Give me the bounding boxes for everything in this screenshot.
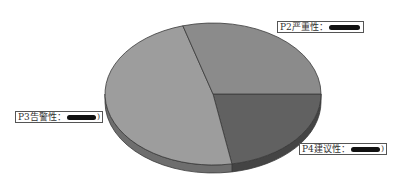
label-p4-suggestion: P4建议性： ) [299, 143, 387, 155]
label-p2-text: P2严重性： [280, 22, 328, 32]
pie-chart: P2严重性： P3告警性： ) P4建议性： ) [0, 0, 398, 188]
label-p3-text: P3告警性： [18, 112, 66, 122]
label-p3-warning: P3告警性： ) [15, 111, 103, 123]
label-p4-text: P4建议性： [302, 144, 350, 154]
redacted-value-p3 [67, 115, 96, 120]
label-p4-suffix: ) [381, 144, 384, 154]
redacted-value-p4 [351, 147, 380, 152]
redacted-value-p2 [329, 25, 360, 30]
label-p2-severe: P2严重性： [277, 21, 364, 33]
label-p3-suffix: ) [97, 112, 100, 122]
